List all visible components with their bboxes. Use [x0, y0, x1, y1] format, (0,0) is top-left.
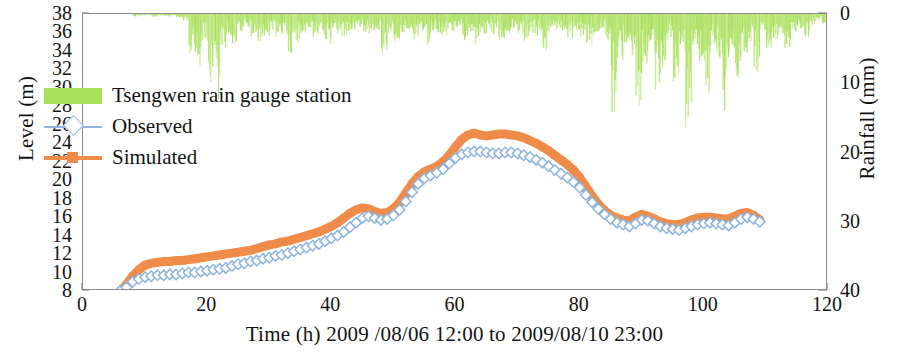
legend-item-observed: Observed	[42, 111, 351, 142]
square-marker-icon	[67, 152, 78, 163]
x-tick-20: 20	[176, 294, 236, 314]
y-right-tick-20: 20	[840, 142, 880, 162]
x-tick-100: 100	[673, 294, 733, 314]
y-axis-left-title: Level (m)	[14, 49, 39, 189]
x-tick-60: 60	[425, 294, 485, 314]
legend-key-rainfall	[42, 83, 104, 109]
legend-key-observed	[42, 114, 104, 140]
legend-key-simulated	[42, 145, 104, 171]
diamond-marker-icon	[63, 114, 84, 135]
legend-item-simulated: Simulated	[42, 142, 351, 173]
legend-label-observed: Observed	[112, 114, 192, 139]
chart-legend: Tsengwen rain gauge station Observed Sim…	[42, 80, 351, 173]
x-tick-40: 40	[300, 294, 360, 314]
y-right-tick-10: 10	[840, 72, 880, 92]
y-axis-right-title: Rainfall (mm)	[855, 34, 880, 204]
chart-figure: Level (m) Rainfall (mm) Time (h) 2009 /0…	[0, 0, 923, 354]
y-right-tick-30: 30	[840, 211, 880, 231]
x-tick-120: 120	[797, 294, 857, 314]
y-right-tick-0: 0	[840, 3, 880, 23]
legend-item-rainfall: Tsengwen rain gauge station	[42, 80, 351, 111]
x-tick-80: 80	[549, 294, 609, 314]
x-tick-0: 0	[52, 294, 112, 314]
x-axis-title: Time (h) 2009 /08/06 12:00 to 2009/08/10…	[82, 322, 827, 347]
legend-label-rainfall: Tsengwen rain gauge station	[112, 83, 351, 108]
legend-label-simulated: Simulated	[112, 145, 197, 170]
green-swatch-icon	[44, 88, 102, 104]
